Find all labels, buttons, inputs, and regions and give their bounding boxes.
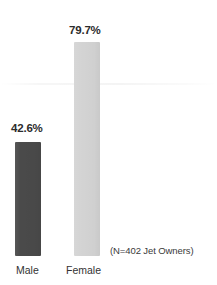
sample-size-note: (N=402 Jet Owners) bbox=[110, 245, 193, 256]
bar-value-label-female: 79.7% bbox=[69, 24, 101, 36]
bar-chart: 42.6% 79.7% Male Female (N=402 Jet Owner… bbox=[0, 0, 217, 285]
category-label-male: Male bbox=[16, 264, 39, 276]
category-label-female: Female bbox=[66, 264, 101, 276]
scan-artifact-line bbox=[0, 83, 217, 85]
bar-male bbox=[15, 142, 41, 256]
bar-female bbox=[74, 42, 100, 256]
bar-value-label-male: 42.6% bbox=[11, 122, 43, 134]
